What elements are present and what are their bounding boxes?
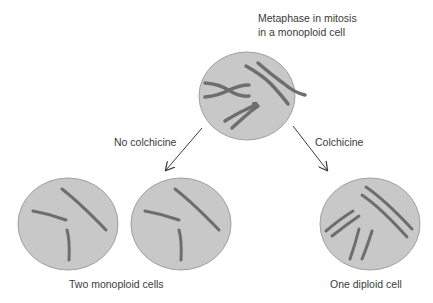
result-label-diploid: One diploid cell bbox=[330, 278, 402, 291]
arrow-left bbox=[166, 128, 202, 170]
metaphase-cell bbox=[199, 52, 305, 140]
branch-label-no-colchicine: No colchicine bbox=[114, 136, 176, 149]
diploid-cell bbox=[320, 178, 420, 270]
monoploid-cell-1 bbox=[18, 178, 118, 270]
monoploid-cell-2 bbox=[131, 178, 231, 270]
branch-label-colchicine: Colchicine bbox=[315, 136, 363, 149]
title-line-1: Metaphase in mitosis bbox=[258, 12, 357, 25]
diagram-canvas bbox=[0, 0, 433, 303]
title-line-2: in a monoploid cell bbox=[258, 26, 345, 39]
result-label-monoploid: Two monoploid cells bbox=[69, 278, 164, 291]
